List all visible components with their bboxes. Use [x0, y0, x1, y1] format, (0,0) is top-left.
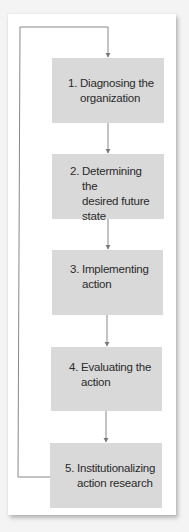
step-label: action research [77, 476, 153, 491]
step-label: action [81, 375, 111, 390]
step-box-4: 4.Evaluating the action [51, 347, 162, 411]
step-number: 4. [69, 360, 81, 375]
step-number: 2. [70, 164, 82, 194]
step-number: 1. [68, 76, 80, 91]
step-box-3: 3.Implementing action [52, 250, 163, 315]
step-number: 5. [65, 461, 77, 476]
step-box-2: 2.Determining the desired future state [52, 154, 164, 219]
step-number: 3. [70, 262, 82, 277]
step-box-1: 1.Diagnosing the organization [52, 58, 164, 123]
step-label: state [82, 209, 106, 224]
step-label: Institutionalizing [77, 461, 155, 476]
step-label: Diagnosing the [80, 76, 154, 91]
step-label: desired future [82, 194, 150, 209]
step-label: Evaluating the [81, 360, 151, 375]
step-box-5: 5.Institutionalizing action research [50, 443, 162, 508]
step-label: Implementing [82, 262, 149, 277]
step-label: organization [80, 91, 140, 106]
step-label: action [82, 277, 112, 292]
step-label: Determining the [82, 164, 160, 194]
